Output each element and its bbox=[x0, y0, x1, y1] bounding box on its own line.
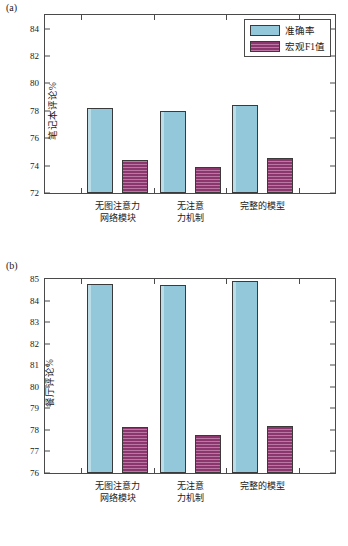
legend-label-macro-f1: 宏观F1值 bbox=[285, 39, 325, 53]
y-tick-mark-right-a-3 bbox=[330, 110, 335, 111]
y-tick-mark-b-5 bbox=[45, 365, 50, 366]
y-tick-label-b-7: 83 bbox=[30, 317, 45, 327]
y-tick-mark-b-7 bbox=[45, 322, 50, 323]
y-tick-mark-a-1 bbox=[45, 165, 50, 166]
bar-b-macro-f1-2 bbox=[267, 426, 293, 473]
bar-group-b-2 bbox=[226, 279, 299, 473]
x-axis-label-line1: 无注意 bbox=[177, 480, 204, 492]
y-tick-mark-a-4 bbox=[45, 83, 50, 84]
x-tick-mark-a-2-0 bbox=[226, 188, 227, 193]
bar-b-accuracy-1 bbox=[160, 285, 186, 473]
y-tick-label-a-4: 80 bbox=[30, 78, 45, 88]
panel-b-tag: (b) bbox=[6, 260, 18, 271]
y-tick-mark-a-3 bbox=[45, 110, 50, 111]
y-tick-mark-b-3 bbox=[45, 408, 50, 409]
y-tick-mark-right-a-0 bbox=[330, 193, 335, 194]
y-tick-mark-right-b-2 bbox=[330, 429, 335, 430]
x-axis-label-a-0: 无图注意力网络模块 bbox=[95, 200, 140, 224]
x-axis-label-line1: 无图注意力 bbox=[95, 480, 140, 492]
y-tick-mark-b-1 bbox=[45, 451, 50, 452]
y-tick-mark-b-6 bbox=[45, 343, 50, 344]
y-tick-mark-a-5 bbox=[45, 56, 50, 57]
legend-item-accuracy: 准确率 bbox=[250, 23, 325, 37]
y-tick-label-b-0: 76 bbox=[30, 468, 45, 478]
bar-a-accuracy-1 bbox=[160, 111, 186, 193]
x-tick-mark-top-b-2-1 bbox=[299, 279, 300, 284]
bar-group-b-0 bbox=[81, 279, 154, 473]
y-tick-label-b-5: 81 bbox=[30, 360, 45, 370]
plot-canvas-b: 76777879808182838485无图注意力网络模块无注意力机制完整的模型 bbox=[45, 279, 335, 473]
panel-a-tag: (a) bbox=[6, 2, 17, 13]
bar-group-b-1 bbox=[154, 279, 227, 473]
x-axis-label-line2: 网络模块 bbox=[95, 492, 140, 504]
bar-a-accuracy-0 bbox=[87, 108, 113, 193]
y-tick-label-b-4: 80 bbox=[30, 382, 45, 392]
y-tick-mark-right-a-2 bbox=[330, 138, 335, 139]
y-tick-label-b-2: 78 bbox=[30, 425, 45, 435]
bar-a-macro-f1-1 bbox=[195, 167, 221, 193]
x-axis-label-b-2: 完整的模型 bbox=[240, 480, 285, 492]
y-tick-label-a-6: 84 bbox=[30, 24, 45, 34]
bar-b-accuracy-2 bbox=[232, 281, 258, 473]
x-axis-label-line1: 完整的模型 bbox=[240, 200, 285, 212]
x-tick-mark-b-1-0 bbox=[154, 468, 155, 473]
x-tick-mark-b-0-0 bbox=[81, 468, 82, 473]
y-tick-label-a-3: 78 bbox=[30, 106, 45, 116]
y-tick-label-a-0: 72 bbox=[30, 188, 45, 198]
x-tick-mark-top-a-1-0 bbox=[154, 15, 155, 20]
x-axis-label-line1: 无图注意力 bbox=[95, 200, 140, 212]
legend-swatch-macro-f1 bbox=[250, 41, 280, 52]
y-tick-mark-a-2 bbox=[45, 138, 50, 139]
y-tick-label-a-1: 74 bbox=[30, 161, 45, 171]
x-tick-mark-top-b-1-0 bbox=[154, 279, 155, 284]
chart-panel-a: (a) 笔记本评论% 72747678808284无图注意力网络模块无注意力机制… bbox=[0, 0, 348, 273]
y-tick-mark-b-0 bbox=[45, 473, 50, 474]
y-tick-mark-right-a-1 bbox=[330, 165, 335, 166]
figure-root: (a) 笔记本评论% 72747678808284无图注意力网络模块无注意力机制… bbox=[0, 0, 348, 546]
y-tick-mark-right-b-5 bbox=[330, 365, 335, 366]
x-axis-label-line2: 力机制 bbox=[177, 492, 204, 504]
x-axis-label-b-1: 无注意力机制 bbox=[177, 480, 204, 504]
bar-b-macro-f1-1 bbox=[195, 435, 221, 473]
legend-label-accuracy: 准确率 bbox=[285, 23, 315, 37]
x-tick-mark-top-b-0-0 bbox=[81, 279, 82, 284]
y-tick-mark-right-b-3 bbox=[330, 408, 335, 409]
x-tick-mark-a-0-0 bbox=[81, 188, 82, 193]
y-tick-mark-a-0 bbox=[45, 193, 50, 194]
y-tick-mark-right-b-7 bbox=[330, 322, 335, 323]
x-axis-label-line1: 完整的模型 bbox=[240, 480, 285, 492]
y-tick-mark-right-b-8 bbox=[330, 300, 335, 301]
x-tick-mark-a-1-0 bbox=[154, 188, 155, 193]
y-tick-label-b-8: 84 bbox=[30, 296, 45, 306]
y-tick-mark-b-4 bbox=[45, 386, 50, 387]
x-tick-mark-top-a-0-0 bbox=[81, 15, 82, 20]
x-tick-mark-top-a-2-0 bbox=[226, 15, 227, 20]
x-axis-label-line2: 网络模块 bbox=[95, 212, 140, 224]
bar-group-a-0 bbox=[81, 15, 154, 193]
legend-swatch-accuracy bbox=[250, 25, 280, 36]
plot-area-a: 笔记本评论% 72747678808284无图注意力网络模块无注意力机制完整的模… bbox=[44, 14, 336, 194]
x-tick-mark-top-b-2-0 bbox=[226, 279, 227, 284]
y-tick-label-b-6: 82 bbox=[30, 339, 45, 349]
y-tick-mark-right-b-4 bbox=[330, 386, 335, 387]
x-axis-label-a-2: 完整的模型 bbox=[240, 200, 285, 212]
x-tick-mark-a-2-1 bbox=[299, 188, 300, 193]
bar-b-accuracy-0 bbox=[87, 284, 113, 473]
y-tick-mark-b-8 bbox=[45, 300, 50, 301]
chart-panel-b: (b) 餐厅评论% 76777879808182838485无图注意力网络模块无… bbox=[0, 258, 348, 546]
x-axis-label-b-0: 无图注意力网络模块 bbox=[95, 480, 140, 504]
x-axis-label-a-1: 无注意力机制 bbox=[177, 200, 204, 224]
y-tick-mark-right-b-1 bbox=[330, 451, 335, 452]
y-tick-label-b-9: 85 bbox=[30, 274, 45, 284]
y-tick-label-b-3: 79 bbox=[30, 403, 45, 413]
x-axis-label-line1: 无注意 bbox=[177, 200, 204, 212]
y-tick-mark-right-b-6 bbox=[330, 343, 335, 344]
y-tick-label-a-5: 82 bbox=[30, 51, 45, 61]
x-axis-label-line2: 力机制 bbox=[177, 212, 204, 224]
y-tick-label-a-2: 76 bbox=[30, 133, 45, 143]
y-tick-label-b-1: 77 bbox=[30, 446, 45, 456]
x-tick-mark-b-2-0 bbox=[226, 468, 227, 473]
legend: 准确率 宏观F1值 bbox=[244, 19, 331, 57]
plot-area-b: 餐厅评论% 76777879808182838485无图注意力网络模块无注意力机… bbox=[44, 278, 336, 474]
y-tick-mark-right-a-4 bbox=[330, 83, 335, 84]
